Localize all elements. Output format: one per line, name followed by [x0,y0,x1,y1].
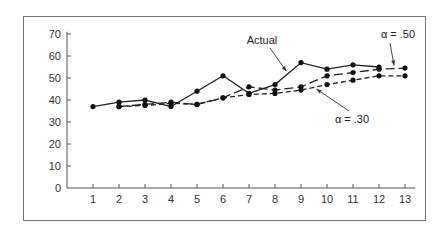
data-point [194,102,199,107]
annotation-label: Actual [247,34,278,46]
data-point [324,73,329,78]
data-point [402,73,407,78]
chart: 01020304050607012345678910111213 Actualα… [0,0,448,236]
data-point [116,104,121,109]
data-point [220,73,225,78]
x-tick-label: 13 [399,193,411,205]
data-point [194,89,199,94]
data-point [90,104,95,109]
data-point [402,66,407,71]
data-point [272,82,277,87]
data-point [142,103,147,108]
y-tick-label: 30 [49,116,61,128]
data-point [272,91,277,96]
y-tick-label: 40 [49,94,61,106]
y-tick-label: 10 [49,160,61,172]
y-tick-label: 0 [55,182,61,194]
x-tick-label: 11 [347,193,358,205]
y-tick-label: 50 [49,72,61,84]
x-tick-label: 12 [373,193,385,205]
x-tick-label: 5 [194,193,200,205]
data-point [168,101,173,106]
annotation-label: α = .30 [335,113,369,125]
data-point [298,88,303,93]
data-point [350,78,355,83]
data-point [246,92,251,97]
data-point [350,62,355,67]
x-tick-label: 8 [272,193,278,205]
x-tick-label: 10 [321,193,333,205]
annotation-label: α = .50 [381,28,415,40]
y-tick-label: 60 [49,50,61,62]
data-point [324,82,329,87]
x-tick-label: 2 [116,193,122,205]
y-tick-label: 20 [49,138,61,150]
x-tick-label: 6 [220,193,226,205]
data-point [376,73,381,78]
data-point [298,60,303,65]
data-point [246,84,251,89]
data-point [350,70,355,75]
data-point [324,67,329,72]
x-tick-label: 9 [298,193,304,205]
x-tick-label: 3 [142,193,148,205]
data-point [376,67,381,72]
x-tick-label: 1 [90,193,96,205]
x-tick-label: 7 [246,193,252,205]
y-tick-label: 70 [49,28,61,40]
x-tick-label: 4 [168,193,174,205]
data-point [220,95,225,100]
